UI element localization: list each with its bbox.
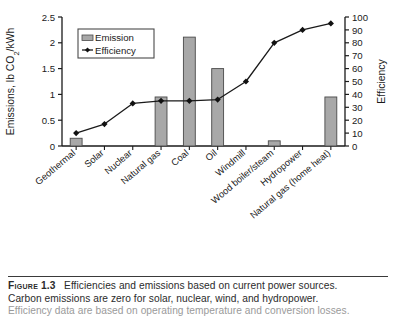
y-axis-right-tick-label: 90 — [352, 25, 363, 36]
y-axis-right-tick-label: 30 — [352, 102, 363, 113]
y-axis-left-title: Emissions, lb CO2/kWh — [5, 27, 21, 135]
bar-oil — [212, 69, 224, 146]
figure-label: Figure — [8, 280, 38, 291]
y-axis-right-tick-label: 10 — [352, 128, 363, 139]
legend-label-efficiency: Efficiency — [95, 45, 136, 56]
caption-line-2: Carbon emissions are zero for solar, nuc… — [8, 293, 390, 306]
y-axis-right-tick-label: 60 — [352, 63, 363, 74]
y-axis-right-tick-label: 40 — [352, 89, 363, 100]
x-axis-tick-label: Geothermal — [33, 147, 78, 187]
caption-divider — [8, 276, 388, 277]
efficiency-marker — [299, 27, 305, 33]
emissions-efficiency-chart: 00.511.522.50102030405060708090100Emissi… — [0, 0, 396, 262]
y-axis-right-tick-label: 100 — [352, 12, 368, 23]
y-axis-right-tick-label: 0 — [352, 141, 357, 152]
caption-line-1: Figure 1.3 Efficiencies and emissions ba… — [8, 280, 390, 293]
y-axis-right-tick-label: 20 — [352, 115, 363, 126]
legend-swatch-emission — [82, 35, 93, 41]
y-axis-left-tick-label: 2.5 — [42, 12, 55, 23]
bar-natural-gas — [155, 97, 167, 146]
y-axis-left-tick-label: 1.5 — [42, 63, 55, 74]
x-axis-tick-label: Coal — [169, 147, 191, 168]
bar-natural-gas-home-heat — [325, 97, 337, 146]
y-axis-left-tick-label: 0 — [50, 141, 55, 152]
y-axis-left-tick-label: 0.5 — [42, 115, 55, 126]
figure-number: 1.3 — [41, 280, 55, 291]
efficiency-marker — [73, 130, 79, 136]
caption-line-3: Efficiency data are based on operating t… — [8, 305, 390, 318]
y-axis-left-tick-label: 1 — [50, 89, 55, 100]
bar-geothermal — [70, 138, 82, 146]
caption-text-1: Efficiencies and emissions based on curr… — [64, 280, 337, 291]
figure-caption: Figure 1.3 Efficiencies and emissions ba… — [8, 280, 390, 318]
y-axis-right-tick-label: 50 — [352, 76, 363, 87]
x-axis-tick-label: Oil — [203, 147, 219, 163]
y-axis-right-tick-label: 70 — [352, 50, 363, 61]
bar-coal — [183, 37, 195, 146]
y-axis-right-tick-label: 80 — [352, 37, 363, 48]
bar-wood-boiler-steam — [268, 141, 280, 146]
y-axis-right-title: Efficiency — [376, 59, 387, 104]
chart-plot-area: 00.511.522.50102030405060708090100Emissi… — [0, 0, 396, 262]
x-axis-tick-label: Solar — [82, 147, 106, 169]
legend-label-emission: Emission — [95, 32, 134, 43]
efficiency-marker — [328, 20, 334, 26]
y-axis-left-tick-label: 2 — [50, 37, 55, 48]
